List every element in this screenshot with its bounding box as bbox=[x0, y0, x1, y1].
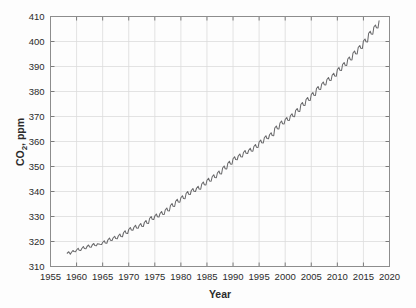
x-tick-label: 1960 bbox=[66, 271, 87, 282]
y-tick-label: 330 bbox=[29, 211, 45, 222]
keeling-curve-plot: 310320330340350360370380390400410 195519… bbox=[0, 0, 416, 308]
y-tick-label: 380 bbox=[29, 86, 45, 97]
x-tick-label: 1990 bbox=[222, 271, 243, 282]
y-tick-label: 410 bbox=[29, 11, 45, 22]
y-tick-label: 360 bbox=[29, 136, 45, 147]
x-tick-label: 1980 bbox=[170, 271, 191, 282]
y-tick-label: 320 bbox=[29, 236, 45, 247]
x-tick-label: 2015 bbox=[353, 271, 374, 282]
x-tick-label: 1975 bbox=[144, 271, 165, 282]
y-tick-label: 400 bbox=[29, 36, 45, 47]
x-tick-label: 1985 bbox=[196, 271, 217, 282]
x-axis-title: Year bbox=[209, 288, 231, 300]
y-tick-label: 340 bbox=[29, 186, 45, 197]
y-axis-title-suffix: , ppm bbox=[14, 118, 26, 146]
x-tick-label: 1970 bbox=[118, 271, 139, 282]
y-tick-label: 390 bbox=[29, 61, 45, 72]
x-tick-label: 2005 bbox=[301, 271, 322, 282]
x-tick-label: 1965 bbox=[92, 271, 113, 282]
x-tick-label: 2000 bbox=[275, 271, 296, 282]
y-axis-title-prefix: CO bbox=[14, 150, 26, 166]
x-tick-label: 2010 bbox=[327, 271, 348, 282]
figure-background bbox=[0, 0, 416, 308]
y-tick-label: 350 bbox=[29, 161, 45, 172]
x-tick-label: 2020 bbox=[379, 271, 400, 282]
y-tick-label: 370 bbox=[29, 111, 45, 122]
x-tick-label: 1955 bbox=[40, 271, 61, 282]
co2-chart-figure: 310320330340350360370380390400410 195519… bbox=[0, 0, 416, 308]
x-tick-label: 1995 bbox=[249, 271, 270, 282]
